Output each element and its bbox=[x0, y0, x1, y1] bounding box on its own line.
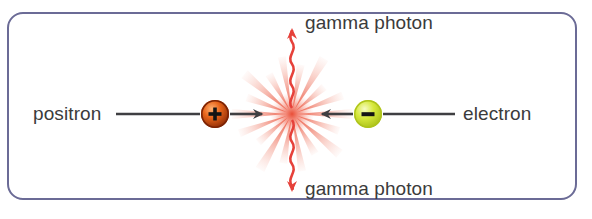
annihilation-diagram: positron electron gamma photon gamma pho… bbox=[0, 0, 592, 219]
label-electron: electron bbox=[463, 103, 531, 125]
label-gamma-photon-bottom: gamma photon bbox=[305, 178, 433, 200]
label-positron: positron bbox=[33, 103, 101, 125]
positron-particle bbox=[201, 100, 229, 128]
label-gamma-photon-top: gamma photon bbox=[305, 12, 433, 34]
electron-particle bbox=[354, 100, 382, 128]
